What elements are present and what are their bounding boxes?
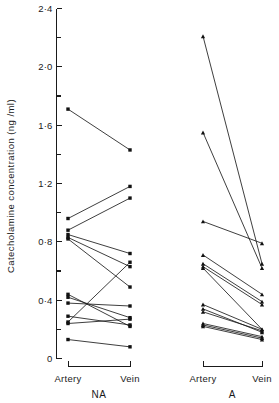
pair-connector-line (68, 235, 130, 254)
data-point-square (128, 317, 131, 320)
x-tick-label-artery: Artery (189, 373, 216, 384)
catecholamine-scatter-chart: 00·40·81·21·62·02·4 Catecholamine concen… (0, 0, 279, 403)
panels-group: ArteryVeinNAArteryVeinA (54, 34, 271, 400)
data-point-square (66, 217, 69, 220)
panel-na: ArteryVeinNA (54, 107, 139, 400)
pair-connector-line (203, 221, 262, 243)
data-point-square (128, 261, 131, 264)
x-tick-label-vein: Vein (252, 373, 272, 384)
data-point-square (66, 301, 69, 304)
pair-connector-line (68, 316, 130, 325)
pair-connector-line (203, 325, 262, 338)
data-point-square (66, 228, 69, 231)
data-point-square (128, 345, 131, 348)
data-point-square (128, 323, 131, 326)
data-point-square (66, 296, 69, 299)
figure-container: 00·40·81·21·62·02·4 Catecholamine concen… (0, 0, 279, 403)
pair-connector-line (68, 237, 130, 266)
y-axis-tick-label: 1·2 (38, 178, 52, 189)
data-point-square (66, 107, 69, 110)
pair-connector-line (68, 262, 130, 322)
data-point-square (128, 252, 131, 255)
pair-connector-line (68, 340, 130, 347)
y-axis-title: Catecholamine concentration (ng /ml) (5, 99, 16, 273)
y-axis-tick-label: 1·6 (38, 120, 52, 131)
data-point-square (66, 315, 69, 318)
data-point-square (128, 148, 131, 151)
pair-connector-line (203, 36, 262, 264)
pair-connector-line (203, 312, 262, 331)
y-axis: 00·40·81·21·62·02·4 (38, 3, 62, 364)
data-point-square (128, 196, 131, 199)
data-point-square (66, 237, 69, 240)
data-point-square (66, 233, 69, 236)
pair-connector-line (203, 132, 262, 268)
data-point-square (128, 285, 131, 288)
data-point-square (128, 265, 131, 268)
pair-connector-line (68, 239, 130, 287)
pair-connector-line (203, 264, 262, 302)
data-point-triangle (201, 34, 205, 38)
data-point-square (128, 304, 131, 307)
panel-a: ArteryVeinA (189, 34, 271, 400)
data-point-square (66, 338, 69, 341)
y-axis-tick-label: 0 (47, 353, 52, 364)
data-point-triangle (201, 303, 205, 307)
y-axis-tick-label: 0·8 (38, 236, 52, 247)
pair-connector-line (203, 255, 262, 294)
y-axis-title-group: Catecholamine concentration (ng /ml) (5, 99, 16, 273)
data-point-triangle (260, 266, 264, 270)
pair-connector-line (68, 303, 130, 306)
panel-bracket (203, 361, 262, 366)
y-axis-tick-label: 2·4 (38, 3, 52, 14)
data-point-square (128, 185, 131, 188)
y-axis-tick-label: 2·0 (38, 61, 52, 72)
pair-connector-line (68, 297, 130, 317)
data-point-triangle (201, 219, 205, 223)
pair-connector-line (68, 109, 130, 150)
panel-label-na: NA (91, 389, 106, 400)
data-point-square (66, 293, 69, 296)
data-point-triangle (201, 253, 205, 257)
x-tick-label-vein: Vein (120, 373, 140, 384)
data-point-triangle (201, 131, 205, 135)
panel-bracket (68, 361, 130, 366)
data-point-triangle (260, 241, 264, 245)
data-point-square (66, 322, 69, 325)
panel-label-a: A (229, 389, 236, 400)
x-tick-label-artery: Artery (54, 373, 81, 384)
y-axis-tick-label: 0·4 (38, 295, 52, 306)
